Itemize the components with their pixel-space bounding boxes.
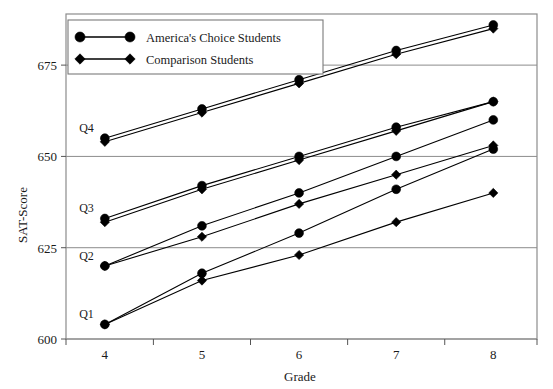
y-tick-label-600: 600 xyxy=(38,332,58,347)
marker-circle-Q2-g7 xyxy=(392,152,401,161)
legend-marker-circle-0-0 xyxy=(75,32,85,42)
marker-circle-Q2-g5 xyxy=(198,221,207,230)
group-label-Q3: Q3 xyxy=(79,201,94,215)
group-label-Q4: Q4 xyxy=(79,121,94,135)
chart-legend: America's Choice StudentsComparison Stud… xyxy=(68,20,323,74)
marker-circle-Q2-g8 xyxy=(489,115,498,124)
legend-marker-circle-0-1 xyxy=(125,32,135,42)
x-tick-label-6: 6 xyxy=(296,347,303,362)
sat-score-line-chart: 600625650675 45678 Q1Q2Q3Q4 America's Ch… xyxy=(0,0,553,389)
marker-circle-Q2-g6 xyxy=(295,189,304,198)
x-tick-label-8: 8 xyxy=(490,347,497,362)
chart-container: 600625650675 45678 Q1Q2Q3Q4 America's Ch… xyxy=(0,0,553,389)
group-label-Q1: Q1 xyxy=(79,307,94,321)
x-axis-title: Grade xyxy=(284,369,316,384)
legend-label-1: Comparison Students xyxy=(146,53,253,67)
x-tick-label-5: 5 xyxy=(199,347,206,362)
legend-label-0: America's Choice Students xyxy=(146,31,281,45)
marker-circle-Q1-g6 xyxy=(295,229,304,238)
group-label-Q2: Q2 xyxy=(79,249,94,263)
y-tick-label-650: 650 xyxy=(38,149,58,164)
y-tick-label-625: 625 xyxy=(38,241,58,256)
marker-circle-Q1-g8 xyxy=(489,145,498,154)
y-tick-label-675: 675 xyxy=(38,58,58,73)
y-axis-title: SAT-Score xyxy=(15,187,30,243)
x-tick-label-4: 4 xyxy=(102,347,109,362)
marker-circle-Q1-g7 xyxy=(392,185,401,194)
x-tick-label-7: 7 xyxy=(393,347,400,362)
